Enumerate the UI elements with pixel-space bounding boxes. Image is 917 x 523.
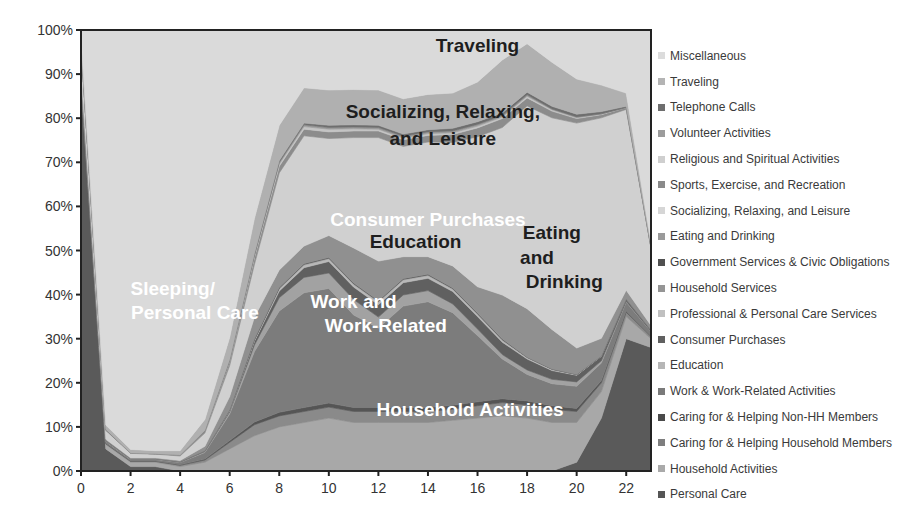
x-tick-label: 6	[226, 480, 234, 496]
legend-item: Consumer Purchases	[658, 327, 892, 353]
x-tick-label: 14	[420, 480, 436, 496]
legend-label: Volunteer Activities	[670, 126, 771, 140]
legend-item: Professional & Personal Care Services	[658, 301, 892, 327]
x-axis: 0246810121416182022	[77, 471, 634, 496]
legend-swatch-icon	[658, 414, 665, 421]
x-tick-label: 4	[176, 480, 184, 496]
legend-label: Miscellaneous	[670, 49, 746, 63]
x-tick-label: 18	[519, 480, 535, 496]
legend-label: Telephone Calls	[670, 100, 755, 114]
y-tick-label: 40%	[45, 287, 73, 303]
y-tick-label: 100%	[37, 22, 73, 38]
legend-item: Personal Care	[658, 482, 892, 508]
legend-label: Eating and Drinking	[670, 229, 775, 243]
legend-item: Household Services	[658, 275, 892, 301]
y-tick-label: 90%	[45, 66, 73, 82]
legend-swatch-icon	[658, 465, 665, 472]
x-tick-label: 2	[127, 480, 135, 496]
legend-item: Government Services & Civic Obligations	[658, 249, 892, 275]
legend-label: Professional & Personal Care Services	[670, 307, 877, 321]
legend-swatch-icon	[658, 388, 665, 395]
legend-label: Socializing, Relaxing, and Leisure	[670, 204, 850, 218]
legend-item: Miscellaneous	[658, 43, 892, 69]
legend-label: Household Activities	[670, 462, 777, 476]
chart-areas	[81, 30, 651, 471]
y-tick-label: 10%	[45, 419, 73, 435]
legend-swatch-icon	[658, 104, 665, 111]
legend-label: Religious and Spiritual Activities	[670, 152, 839, 166]
area-label: Traveling	[436, 35, 519, 56]
area-label: Eating	[523, 222, 581, 243]
legend-label: Caring for & Helping Non-HH Members	[670, 410, 878, 424]
legend-swatch-icon	[658, 439, 665, 446]
area-label: Sleeping/	[130, 278, 215, 299]
legend-label: Education	[670, 358, 723, 372]
y-tick-label: 80%	[45, 110, 73, 126]
x-tick-label: 8	[275, 480, 283, 496]
area-label: Personal Care	[131, 302, 259, 323]
y-axis: 0%10%20%30%40%50%60%70%80%90%100%	[37, 22, 81, 479]
area-label: Household Activities	[376, 399, 563, 420]
y-tick-label: 60%	[45, 198, 73, 214]
area-label: and	[520, 247, 554, 268]
x-tick-label: 20	[569, 480, 585, 496]
area-label: Work and	[310, 291, 396, 312]
legend-item: Sports, Exercise, and Recreation	[658, 172, 892, 198]
y-tick-label: 30%	[45, 331, 73, 347]
legend-item: Telephone Calls	[658, 95, 892, 121]
legend-swatch-icon	[658, 491, 665, 498]
legend-item: Caring for & Helping Non-HH Members	[658, 404, 892, 430]
legend-item: Volunteer Activities	[658, 120, 892, 146]
chart-legend: MiscellaneousTravelingTelephone CallsVol…	[658, 43, 892, 507]
x-tick-label: 22	[618, 480, 634, 496]
area-label: and Leisure	[389, 128, 496, 149]
y-tick-label: 0%	[53, 463, 73, 479]
y-tick-label: 70%	[45, 154, 73, 170]
area-label: Drinking	[526, 271, 603, 292]
legend-swatch-icon	[658, 207, 665, 214]
legend-item: Household Activities	[658, 456, 892, 482]
legend-swatch-icon	[658, 362, 665, 369]
legend-swatch-icon	[658, 52, 665, 59]
legend-swatch-icon	[658, 285, 665, 292]
x-tick-label: 10	[321, 480, 337, 496]
legend-label: Household Services	[670, 281, 777, 295]
area-label: Education	[370, 231, 462, 252]
legend-item: Eating and Drinking	[658, 224, 892, 250]
legend-label: Traveling	[670, 75, 719, 89]
legend-label: Work & Work-Related Activities	[670, 384, 836, 398]
legend-swatch-icon	[658, 130, 665, 137]
legend-item: Caring for & Helping Household Members	[658, 430, 892, 456]
legend-swatch-icon	[658, 233, 665, 240]
area-label: Socializing, Relaxing,	[346, 101, 540, 122]
x-tick-label: 16	[470, 480, 486, 496]
legend-item: Socializing, Relaxing, and Leisure	[658, 198, 892, 224]
x-tick-label: 0	[77, 480, 85, 496]
legend-label: Government Services & Civic Obligations	[670, 255, 889, 269]
area-label: Consumer Purchases	[330, 209, 525, 230]
legend-item: Education	[658, 353, 892, 379]
legend-item: Traveling	[658, 69, 892, 95]
legend-label: Sports, Exercise, and Recreation	[670, 178, 845, 192]
legend-swatch-icon	[658, 310, 665, 317]
legend-swatch-icon	[658, 181, 665, 188]
legend-swatch-icon	[658, 156, 665, 163]
area-label: Work-Related	[325, 315, 447, 336]
legend-label: Consumer Purchases	[670, 333, 785, 347]
legend-swatch-icon	[658, 78, 665, 85]
y-tick-label: 50%	[45, 243, 73, 259]
legend-swatch-icon	[658, 336, 665, 343]
legend-label: Personal Care	[670, 487, 747, 501]
x-tick-label: 12	[371, 480, 387, 496]
legend-item: Religious and Spiritual Activities	[658, 146, 892, 172]
y-tick-label: 20%	[45, 375, 73, 391]
legend-swatch-icon	[658, 259, 665, 266]
legend-label: Caring for & Helping Household Members	[670, 436, 892, 450]
legend-item: Work & Work-Related Activities	[658, 378, 892, 404]
